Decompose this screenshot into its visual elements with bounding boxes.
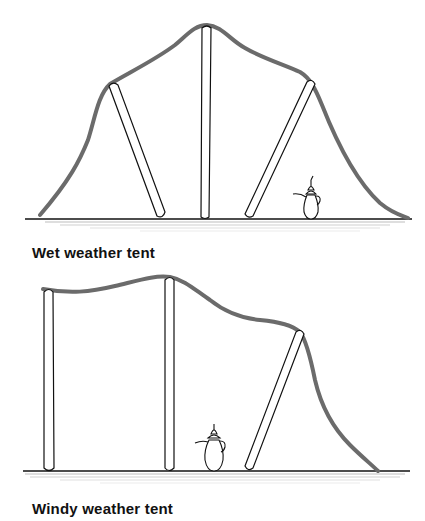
ground-speckle — [45, 221, 405, 232]
windy-weather-caption: Windy weather tent — [32, 500, 173, 517]
center-pole — [201, 26, 211, 219]
ground-speckle — [25, 473, 405, 484]
wet-weather-caption: Wet weather tent — [32, 244, 155, 261]
right-slanted-pole — [245, 330, 304, 469]
coffee-pot-icon — [195, 424, 225, 471]
tent-cloth — [40, 25, 408, 218]
left-slanted-pole — [109, 83, 165, 217]
wet-weather-tent-illustration — [0, 0, 425, 260]
windy-weather-tent-illustration — [0, 260, 425, 521]
wet-weather-panel: Wet weather tent — [0, 0, 425, 260]
coffee-pot-icon — [293, 176, 320, 219]
left-pole — [44, 290, 54, 471]
windy-weather-panel: Windy weather tent — [0, 260, 425, 521]
middle-pole — [165, 278, 174, 471]
